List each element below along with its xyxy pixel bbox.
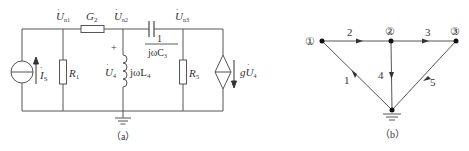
node-3-dot [454, 39, 459, 44]
g2-label: G2 [86, 10, 98, 24]
branch-5 [392, 41, 456, 110]
branch-1-arrow-icon [352, 70, 358, 78]
node-2-dot [389, 39, 394, 44]
svg-text:·: · [176, 5, 179, 14]
branch-2-label: 2 [347, 26, 353, 38]
inductor-label: jωL4 [129, 66, 151, 80]
capacitor-numerator: 1 [157, 33, 162, 44]
svg-text:·: · [115, 5, 118, 14]
branch-3-label: 3 [425, 26, 431, 38]
svg-text:·: · [40, 63, 43, 72]
ground-node-dot [390, 108, 395, 113]
svg-text:·: · [57, 5, 60, 14]
branch-3-arrow-icon [422, 39, 429, 44]
capacitor-denominator: jωC3 [147, 47, 167, 59]
branch-2-arrow-icon [356, 39, 363, 44]
caption-b: （b） [380, 129, 405, 140]
inductor-coil [123, 55, 127, 87]
node-3-label: ③ [450, 25, 460, 37]
r1-resistor [60, 60, 67, 84]
node-1-label: ① [305, 35, 315, 47]
node-1-dot [320, 39, 325, 44]
node-2-label: ② [385, 25, 395, 37]
r1-label: R1 [68, 67, 80, 81]
branch-4-arrow-icon [389, 72, 394, 79]
branch-5-label: 5 [430, 76, 436, 88]
circuit-diagrams: Un1 · G2 Un2 · Un3 · 1 jωC3 IS · R1 + U4… [0, 0, 469, 151]
r5-label: R5 [188, 67, 200, 81]
graph-b [322, 41, 456, 120]
g2-resistor [81, 26, 104, 33]
branch-4-label: 4 [378, 69, 384, 81]
svg-text:·: · [247, 60, 250, 69]
svg-text:·: · [106, 60, 109, 69]
figure: Un1 · G2 Un2 · Un3 · 1 jωC3 IS · R1 + U4… [0, 0, 469, 151]
branch-1-label: 1 [344, 74, 350, 86]
caption-a: （a） [111, 131, 135, 142]
r5-resistor [180, 60, 187, 84]
u4-polarity-plus: + [111, 42, 117, 53]
